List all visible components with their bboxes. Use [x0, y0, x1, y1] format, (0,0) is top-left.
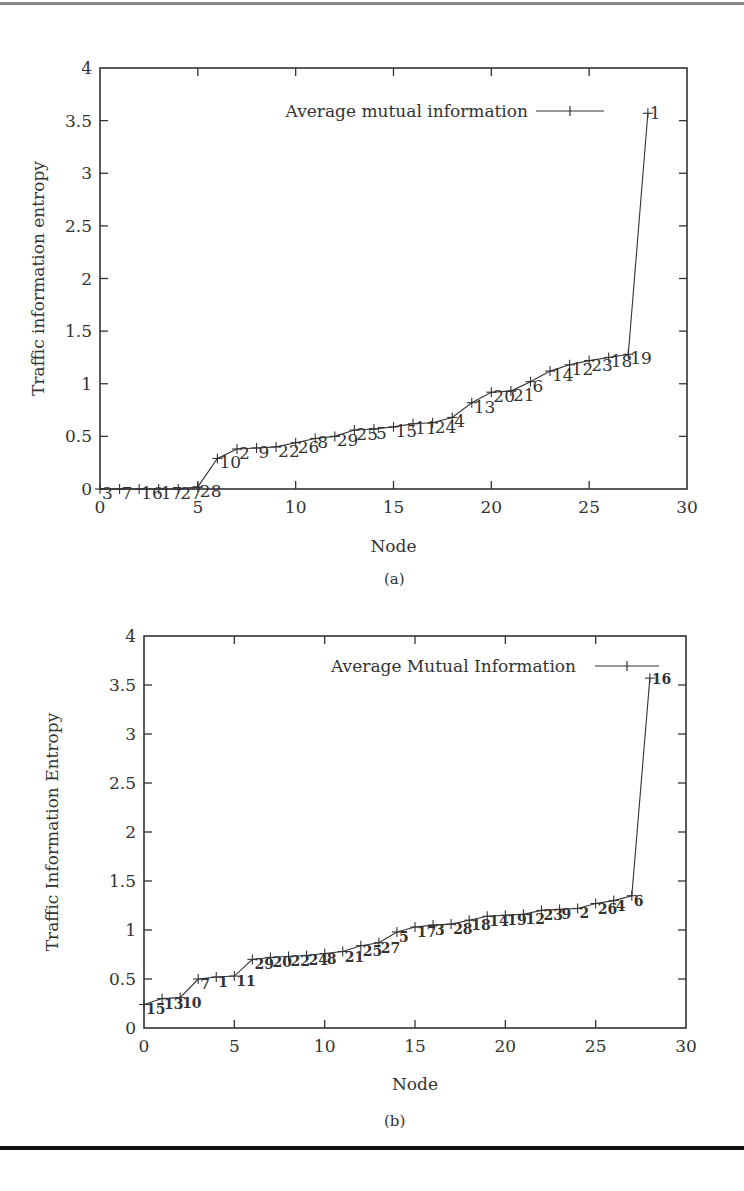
point-label: 7 — [122, 483, 133, 503]
figure-canvas: 05101520253000.511.522.533.54NodeTraffic… — [0, 0, 744, 1191]
point-label: 11 — [236, 973, 255, 989]
x-tick-label: 30 — [676, 497, 698, 517]
y-tick-label: 3.5 — [109, 675, 136, 695]
x-tick-label: 20 — [481, 497, 503, 517]
point-label: 3 — [102, 483, 113, 503]
point-label: 24 — [435, 417, 457, 437]
y-tick-label: 2 — [81, 269, 92, 289]
y-tick-label: 1.5 — [65, 321, 92, 341]
x-tick-label: 10 — [285, 497, 307, 517]
point-label: 2 — [239, 443, 250, 463]
point-label: 5 — [399, 929, 409, 945]
x-tick-label: 15 — [404, 1036, 426, 1056]
point-label: 28 — [200, 481, 222, 501]
y-tick-label: 0.5 — [65, 426, 92, 446]
x-tick-label: 5 — [229, 1036, 240, 1056]
point-label: 7 — [200, 976, 210, 992]
x-axis-label: Node — [370, 536, 416, 556]
point-label: 17 — [161, 483, 183, 503]
point-label: 22 — [278, 441, 300, 461]
x-tick-label: 20 — [495, 1036, 517, 1056]
y-tick-label: 2 — [125, 822, 136, 842]
point-label: 8 — [327, 951, 337, 967]
point-label: 10 — [219, 452, 241, 472]
point-label: 19 — [630, 348, 652, 368]
x-tick-label: 0 — [139, 1036, 150, 1056]
legend-label: Average Mutual Information — [330, 656, 576, 676]
x-tick-label: 10 — [314, 1036, 336, 1056]
point-label: 9 — [562, 906, 572, 922]
y-tick-label: 0.5 — [109, 969, 136, 989]
y-axis-label: Traffic Information Entropy — [42, 712, 62, 951]
point-label: 26 — [298, 437, 320, 457]
bottom-rule — [0, 1146, 744, 1150]
point-label: 12 — [572, 359, 594, 379]
point-label: 1 — [650, 103, 661, 123]
point-label: 1 — [218, 974, 228, 990]
y-tick-label: 3 — [81, 163, 92, 183]
point-label: 27 — [381, 940, 400, 956]
point-label: 25 — [356, 424, 378, 444]
point-label: 4 — [616, 898, 626, 914]
point-label: 15 — [146, 1001, 165, 1017]
y-axis-label: Traffic information entropy — [28, 161, 48, 396]
point-label: 6 — [634, 893, 644, 909]
point-label: 6 — [532, 376, 543, 396]
point-label: 5 — [376, 423, 387, 443]
point-label: 29 — [337, 430, 359, 450]
point-label: 21 — [513, 385, 535, 405]
point-label: 24 — [309, 952, 329, 968]
point-label: 11 — [415, 418, 437, 438]
y-tick-label: 0 — [81, 479, 92, 499]
point-label: 3 — [435, 922, 445, 938]
point-label: 16 — [652, 671, 671, 687]
x-tick-label: 25 — [585, 1036, 607, 1056]
point-label: 14 — [552, 365, 574, 385]
point-label: 2 — [580, 905, 590, 921]
caption-a: (a) — [384, 570, 405, 588]
point-label: 21 — [345, 949, 364, 965]
y-tick-label: 1.5 — [109, 871, 136, 891]
y-tick-label: 2.5 — [109, 773, 136, 793]
x-axis-label: Node — [392, 1074, 438, 1094]
y-tick-label: 1 — [81, 374, 92, 394]
point-label: 9 — [259, 442, 270, 462]
x-tick-label: 15 — [383, 497, 405, 517]
y-tick-label: 4 — [125, 626, 136, 646]
y-tick-label: 3 — [125, 724, 136, 744]
point-label: 8 — [317, 432, 328, 452]
x-tick-label: 30 — [675, 1036, 697, 1056]
y-tick-label: 1 — [125, 920, 136, 940]
y-tick-label: 4 — [81, 58, 92, 78]
point-label: 27 — [180, 483, 202, 503]
point-label: 4 — [454, 411, 465, 431]
point-label: 13 — [474, 397, 496, 417]
y-tick-label: 3.5 — [65, 111, 92, 131]
point-label: 16 — [141, 483, 163, 503]
y-tick-label: 0 — [125, 1018, 136, 1038]
point-label: 10 — [182, 995, 202, 1011]
x-tick-label: 25 — [578, 497, 600, 517]
legend-label: Average mutual information — [285, 101, 528, 121]
plot-frame — [144, 636, 686, 1028]
y-tick-label: 2.5 — [65, 216, 92, 236]
point-label: 20 — [493, 386, 515, 406]
caption-b: (b) — [384, 1112, 405, 1130]
